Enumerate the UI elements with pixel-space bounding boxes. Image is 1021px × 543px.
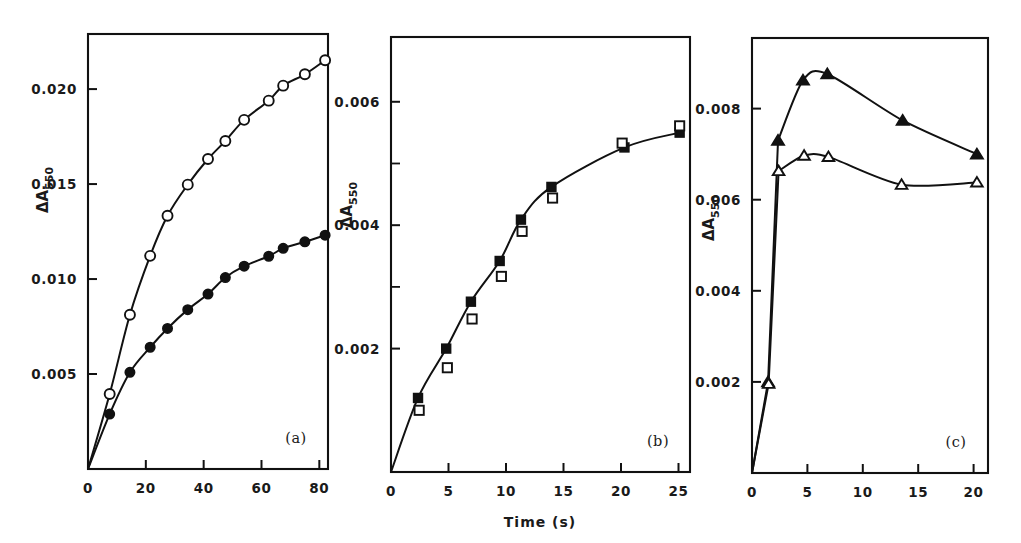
- figure-svg: 0.0050.0100.0150.020020406080ΔA550(a) 0.…: [0, 0, 1021, 543]
- x-axis-tick-label: 5: [444, 483, 454, 499]
- filled-circle-marker: [264, 252, 273, 261]
- y-axis-tick-label: 0.002: [695, 374, 741, 390]
- open-square-marker: [443, 363, 452, 372]
- y-axis-tick-label: 0.008: [695, 101, 741, 117]
- x-axis-tick-label: 15: [908, 484, 928, 500]
- open-square-marker: [415, 406, 424, 415]
- open-circle-marker: [203, 154, 213, 164]
- y-axis-title-delta-a: ΔA: [34, 189, 52, 213]
- filled-square-marker: [495, 257, 504, 266]
- filled-square-marker: [414, 394, 423, 403]
- x-axis-tick-label: 15: [554, 483, 574, 499]
- open-circle-marker: [145, 251, 155, 261]
- open-square-marker: [497, 272, 506, 281]
- x-axis-tick-label: 0: [747, 484, 757, 500]
- filled-circle-marker: [239, 261, 248, 270]
- open-circle-marker: [278, 81, 288, 91]
- open-circle-marker: [300, 69, 310, 79]
- x-axis-tick-label: 0: [83, 480, 93, 496]
- x-axis-tick-label: 25: [669, 483, 689, 499]
- y-axis-title-delta-a: ΔA: [700, 217, 718, 241]
- filled-circle-marker: [203, 289, 212, 298]
- y-axis-tick-label: 0.005: [31, 366, 77, 382]
- filled-circle-marker: [105, 409, 114, 418]
- filled-circle-marker: [163, 324, 172, 333]
- filled-circle-marker: [145, 343, 154, 352]
- open-circle-marker: [220, 136, 230, 146]
- y-axis-title-subscript: 550: [43, 167, 56, 190]
- open-square-marker: [518, 227, 527, 236]
- filled-square-marker: [517, 215, 526, 224]
- panel-tag: (a): [285, 430, 306, 446]
- open-circle-marker: [125, 310, 135, 320]
- filled-square-marker: [442, 344, 451, 353]
- x-axis-tick-label: 10: [853, 484, 873, 500]
- figure-container: 0.0050.0100.0150.020020406080ΔA550(a) 0.…: [0, 0, 1021, 543]
- open-circle-marker: [183, 180, 193, 190]
- filled-circle-marker: [320, 230, 329, 239]
- y-axis-tick-label: 0.020: [31, 81, 77, 97]
- x-axis-tick-label: 0: [386, 483, 396, 499]
- filled-circle-marker: [300, 237, 309, 246]
- panel-tag: (b): [647, 433, 669, 449]
- x-axis-tick-label: 60: [251, 480, 271, 496]
- filled-circle-marker: [183, 305, 192, 314]
- open-square-marker: [548, 193, 557, 202]
- figure-background: [0, 0, 1021, 543]
- x-axis-tick-label: 40: [194, 480, 214, 496]
- open-circle-marker: [320, 55, 330, 65]
- y-axis-tick-label: 0.002: [334, 341, 380, 357]
- y-axis-tick-label: 0.006: [334, 94, 380, 110]
- x-axis-tick-label: 80: [309, 480, 329, 496]
- open-square-marker: [675, 121, 684, 130]
- open-circle-marker: [163, 211, 173, 221]
- open-square-marker: [467, 314, 476, 323]
- filled-square-marker: [547, 183, 556, 192]
- filled-circle-marker: [125, 368, 134, 377]
- x-axis-tick-label: 10: [496, 483, 516, 499]
- y-axis-title-subscript: 550: [347, 182, 360, 205]
- y-axis-tick-label: 0.004: [695, 283, 741, 299]
- panel-tag: (c): [946, 434, 967, 450]
- x-axis-title: Time (s): [504, 514, 576, 530]
- filled-circle-marker: [278, 244, 287, 253]
- x-axis-tick-label: 5: [802, 484, 812, 500]
- open-square-marker: [618, 139, 627, 148]
- y-axis-tick-label: 0.010: [31, 271, 77, 287]
- y-axis-title-subscript: 550: [709, 195, 722, 218]
- y-axis-title-delta-a: ΔA: [338, 204, 356, 228]
- open-circle-marker: [239, 115, 249, 125]
- x-axis-tick-label: 20: [611, 483, 631, 499]
- x-axis-tick-label: 20: [964, 484, 984, 500]
- open-circle-marker: [105, 389, 115, 399]
- open-circle-marker: [264, 96, 274, 106]
- filled-square-marker: [467, 297, 476, 306]
- x-axis-tick-label: 20: [136, 480, 156, 496]
- filled-circle-marker: [221, 273, 230, 282]
